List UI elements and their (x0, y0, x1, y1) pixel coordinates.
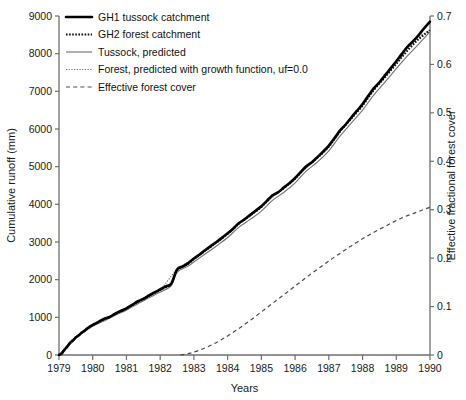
x-tick-label: 1986 (283, 362, 307, 374)
x-axis-title: Years (231, 382, 259, 394)
y-tick-label: 6000 (29, 123, 53, 135)
legend-label-4: Effective forest cover (98, 81, 196, 93)
series-line-3 (59, 30, 430, 355)
legend-label-2: Tussock, predicted (98, 46, 186, 58)
y-tick-label: 9000 (29, 10, 53, 22)
x-tick-label: 1983 (182, 362, 206, 374)
y-axis-title: Cumulative runoff (mm) (5, 128, 17, 243)
y2-tick-label: 0.7 (437, 10, 452, 22)
legend-item-1: GH2 forest catchment (66, 28, 200, 40)
legend-item-2: Tussock, predicted (66, 46, 186, 58)
x-tick-label: 1979 (47, 362, 71, 374)
y-tick-label: 8000 (29, 47, 53, 59)
y-tick-label: 0 (46, 349, 52, 361)
y-tick-label: 3000 (29, 236, 53, 248)
y2-tick-label: 0.1 (437, 300, 452, 312)
y-tick-label: 5000 (29, 160, 53, 172)
y2-tick-label: 0 (437, 349, 443, 361)
x-tick-label: 1980 (81, 362, 105, 374)
x-tick-label: 1987 (317, 362, 341, 374)
y-tick-label: 4000 (29, 198, 53, 210)
legend-label-1: GH2 forest catchment (98, 28, 200, 40)
y2-tick-label: 0.6 (437, 58, 452, 70)
y2-axis-title: Effective fractional forest cover (445, 110, 457, 261)
x-tick-label: 1985 (250, 362, 274, 374)
cumulative-runoff-chart: 010002000300040005000600070008000900000.… (0, 0, 466, 400)
x-tick-label: 1982 (149, 362, 173, 374)
y-tick-label: 2000 (29, 273, 53, 285)
x-tick-label: 1988 (351, 362, 375, 374)
x-tick-label: 1990 (418, 362, 442, 374)
legend-item-4: Effective forest cover (66, 81, 196, 93)
legend-item-3: Forest, predicted with growth function, … (66, 63, 308, 75)
series-line-1 (59, 30, 430, 355)
y-tick-label: 1000 (29, 311, 53, 323)
x-tick-label: 1989 (385, 362, 409, 374)
x-tick-label: 1981 (115, 362, 139, 374)
legend-item-0: GH1 tussock catchment (66, 11, 210, 23)
chart-figure: 010002000300040005000600070008000900000.… (0, 0, 466, 400)
series-line-4 (180, 207, 430, 355)
legend-label-0: GH1 tussock catchment (98, 11, 210, 23)
legend-label-3: Forest, predicted with growth function, … (98, 63, 308, 75)
x-tick-label: 1984 (216, 362, 240, 374)
y-tick-label: 7000 (29, 85, 53, 97)
